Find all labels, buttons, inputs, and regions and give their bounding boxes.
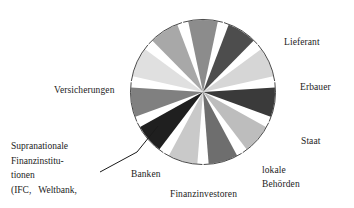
slice-label-banken: Banken: [131, 168, 161, 181]
slice-label-versicherungen: Versicherungen: [54, 84, 115, 97]
pie-chart-figure: Lieferant Erbauer Staat lokale Behörden …: [0, 0, 354, 208]
slice-label-lieferant: Lieferant: [284, 36, 320, 49]
supranationale-line-1: Supranationale: [11, 139, 77, 154]
slice-label-erbauer: Erbauer: [300, 81, 331, 94]
pie-slices-group: [131, 20, 275, 164]
supranationale-line-4: (IFC, Weltbank,: [11, 183, 77, 198]
supranationale-line-2: Finanzinstitu-: [11, 154, 77, 169]
slice-label-behoerden: Behörden: [262, 178, 300, 191]
slice-label-staat: Staat: [301, 135, 321, 148]
slice-label-supranationale-finanzinstitutionen: Supranationale Finanzinstitu- tionen (IF…: [11, 139, 77, 197]
slice-label-lokale: lokale: [262, 164, 286, 177]
slice-label-finanzinvestoren: Finanzinvestoren: [170, 188, 237, 201]
supranationale-line-3: tionen: [11, 168, 77, 183]
